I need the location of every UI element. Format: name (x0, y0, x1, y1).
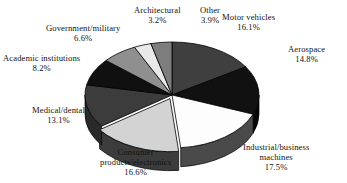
slice-label-name: Government/military (46, 23, 120, 33)
slice-label-name: Academic institutions (3, 53, 80, 63)
slice-label-name: Other (200, 5, 220, 15)
slice-label-percent: 16.6% (100, 167, 171, 177)
slice-label-percent: 3.9% (200, 15, 220, 25)
slice-label-name: Industrial/business (243, 142, 309, 152)
slice-label-percent: 14.8% (288, 54, 325, 64)
slice-label-architectural: Architectural 3.2% (134, 5, 181, 25)
slice-label-percent: 6.6% (46, 33, 120, 43)
slice-label-percent: 3.2% (134, 15, 181, 25)
slice-label-percent: 8.2% (3, 63, 80, 73)
slice-label-name-line2: products/electronics (100, 157, 171, 167)
slice-label-government-military: Government/military 6.6% (46, 23, 120, 43)
slice-label-name: Aerospace (288, 44, 325, 54)
slice-label-name: Architectural (134, 5, 181, 15)
slice-label-consumer-products-electronics: Consumer products/electronics 16.6% (100, 147, 171, 178)
slice-label-academic-institutions: Academic institutions 8.2% (3, 53, 80, 73)
slice-label-percent: 17.5% (243, 162, 309, 172)
slice-label-percent: 13.1% (32, 115, 85, 125)
slice-label-name: Motor vehicles (222, 12, 275, 22)
pie-chart: Motor vehicles 16.1% Aerospace 14.8% Ind… (0, 0, 347, 183)
slice-label-other: Other 3.9% (200, 5, 220, 25)
slice-label-name-line2: machines (243, 152, 309, 162)
slice-label-name: Medical/dental (32, 105, 85, 115)
slice-label-percent: 16.1% (222, 22, 275, 32)
slice-label-medical-dental: Medical/dental 13.1% (32, 105, 85, 125)
slice-label-industrial-business-machines: Industrial/business machines 17.5% (243, 142, 309, 173)
slice-label-name: Consumer (100, 147, 171, 157)
slice-label-aerospace: Aerospace 14.8% (288, 44, 325, 64)
slice-label-motor-vehicles: Motor vehicles 16.1% (222, 12, 275, 32)
